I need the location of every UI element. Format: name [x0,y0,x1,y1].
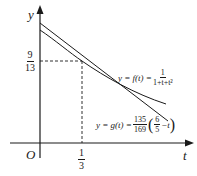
g-equation-label: y = g(t) = 135 169 ( 6 5 −t ) [96,115,175,134]
x-tick-label: 1 3 [78,148,85,171]
x-axis-label: t [183,149,187,162]
y-axis-label: y [28,8,34,21]
y-tick-label: 9 13 [25,50,35,73]
f-curve [40,30,166,104]
y-axis-arrow-icon [37,5,44,14]
f-equation-label: y = f(t) = 1 1+t+t² [118,68,174,87]
x-axis-arrow-icon [185,140,194,147]
origin-label: O [26,148,35,161]
